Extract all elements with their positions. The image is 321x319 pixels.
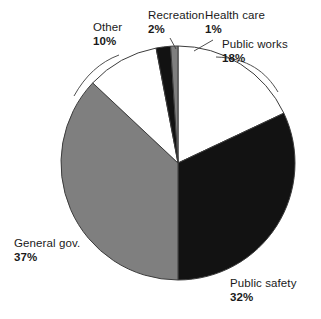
pie-label-general-gov-name: General gov. (14, 237, 80, 251)
pie-label-public-works-name: Public works (222, 38, 288, 52)
pie-label-recreation-name: Recreation (148, 9, 205, 23)
pie-label-other-value: 10% (93, 35, 122, 49)
pie-label-recreation: Recreation 2% (148, 9, 205, 36)
pie-label-public-safety-value: 32% (230, 291, 297, 305)
pie-chart: Public works 18% Public safety 32% Gener… (0, 0, 321, 319)
pie-label-public-safety: Public safety 32% (230, 277, 297, 304)
pie-label-general-gov: General gov. 37% (14, 237, 80, 264)
pie-label-recreation-value: 2% (148, 23, 205, 37)
pie-slice-group (61, 46, 295, 280)
pie-label-public-works-value: 18% (222, 52, 288, 66)
pie-label-public-works: Public works 18% (222, 38, 288, 65)
pie-label-other-name: Other (93, 21, 122, 35)
pie-label-health-care-name: Health care (205, 9, 265, 23)
pie-label-public-safety-name: Public safety (230, 277, 297, 291)
pie-label-other: Other 10% (93, 21, 122, 48)
pie-label-general-gov-value: 37% (14, 251, 80, 265)
pie-label-health-care: Health care 1% (205, 9, 265, 36)
pie-label-health-care-value: 1% (205, 23, 265, 37)
